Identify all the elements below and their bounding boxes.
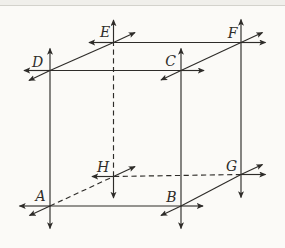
scanned-textbook-figure: ABCDEFGH <box>0 0 285 248</box>
ray-H-back-up-right <box>114 167 136 177</box>
vertex-label-H: H <box>96 159 110 175</box>
ray-E-back-up-right <box>114 33 136 43</box>
cube-edges <box>50 43 241 207</box>
ray-D-back-down-left <box>29 71 50 81</box>
vertex-line-rays <box>20 20 266 229</box>
edge-CF <box>181 43 241 71</box>
ray-C-back-down-left <box>161 71 181 81</box>
ray-B-back-down-left <box>161 206 181 216</box>
vertex-label-G: G <box>226 158 237 174</box>
ray-A-back-down-left <box>30 206 51 216</box>
edge-DE <box>50 43 114 71</box>
vertex-label-D: D <box>31 54 43 70</box>
vertex-labels: ABCDEFGH <box>31 24 239 205</box>
ray-F-back-up-right <box>241 33 263 43</box>
edge-BG <box>181 175 241 207</box>
ray-G-back-up-right <box>241 165 263 175</box>
cube-lines-diagram: ABCDEFGH <box>0 0 285 248</box>
edge-AH <box>50 177 114 207</box>
vertex-label-E: E <box>99 24 110 40</box>
vertex-label-A: A <box>33 188 45 204</box>
vertex-label-B: B <box>165 189 176 205</box>
edge-GH <box>114 175 242 177</box>
vertex-label-C: C <box>165 53 176 69</box>
vertex-label-F: F <box>227 25 239 41</box>
